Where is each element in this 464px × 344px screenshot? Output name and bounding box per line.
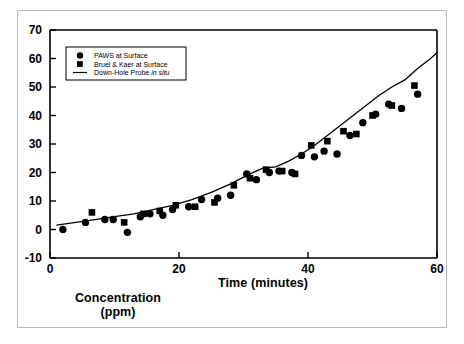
data-point-paws xyxy=(414,90,421,97)
y-tick-label: 10 xyxy=(12,194,42,208)
data-point-bruel-kaer xyxy=(389,102,396,109)
data-point-paws xyxy=(346,132,353,139)
legend-box: PAWS at SurfaceBruel & Kaer at SurfaceDo… xyxy=(66,47,186,80)
y-tick-label: 50 xyxy=(12,80,42,94)
legend-label-text: Bruel & Kaer at Surface xyxy=(94,61,168,68)
data-point-paws xyxy=(185,203,192,210)
y-tick-label: 70 xyxy=(12,23,42,37)
legend-label-text: Down-Hole Probe xyxy=(94,69,151,76)
data-point-paws xyxy=(253,176,260,183)
y-tick-label: 0 xyxy=(12,223,42,237)
data-point-bruel-kaer xyxy=(324,138,331,145)
x-tick-label: 20 xyxy=(164,262,194,276)
chart-figure: PAWS at SurfaceBruel & Kaer at SurfaceDo… xyxy=(0,0,464,344)
data-point-paws xyxy=(82,219,89,226)
legend-square-marker xyxy=(77,61,83,67)
data-point-bruel-kaer xyxy=(211,199,218,206)
data-point-paws xyxy=(333,150,340,157)
legend-label: Down-Hole Probe in situ xyxy=(94,69,170,76)
legend-circle-marker xyxy=(77,52,83,58)
data-point-bruel-kaer xyxy=(192,203,199,210)
data-point-bruel-kaer xyxy=(279,168,286,175)
data-point-bruel-kaer xyxy=(121,219,128,226)
y-tick-label: 40 xyxy=(12,109,42,123)
legend-label-italic: in situ xyxy=(151,69,169,76)
data-point-bruel-kaer xyxy=(247,175,254,182)
data-point-paws xyxy=(398,105,405,112)
data-point-bruel-kaer xyxy=(369,112,376,119)
data-point-paws xyxy=(59,226,66,233)
y-axis-title-line2: (ppm) xyxy=(58,305,178,319)
data-point-paws xyxy=(359,119,366,126)
legend-label-text: PAWS at Surface xyxy=(94,52,148,59)
data-point-paws xyxy=(227,192,234,199)
data-point-paws xyxy=(101,216,108,223)
y-tick-label: 30 xyxy=(12,137,42,151)
x-tick-label: 0 xyxy=(35,262,65,276)
data-point-paws xyxy=(124,229,131,236)
x-axis-title: Time (minutes) xyxy=(218,276,308,290)
data-point-paws xyxy=(311,153,318,160)
y-axis-title: Concentration (ppm) xyxy=(58,291,178,319)
data-point-bruel-kaer xyxy=(411,82,418,89)
data-point-bruel-kaer xyxy=(89,209,96,216)
y-tick-label: 20 xyxy=(12,166,42,180)
data-point-bruel-kaer xyxy=(292,171,299,178)
data-point-bruel-kaer xyxy=(353,131,360,138)
y-axis-title-line1: Concentration xyxy=(58,291,178,305)
x-tick-label: 40 xyxy=(293,262,323,276)
data-point-bruel-kaer xyxy=(340,128,347,135)
legend-label: Bruel & Kaer at Surface xyxy=(94,61,168,68)
legend-label: PAWS at Surface xyxy=(94,52,148,59)
x-tick-label: 60 xyxy=(422,262,452,276)
y-tick-label: 60 xyxy=(12,52,42,66)
data-point-paws xyxy=(320,147,327,154)
